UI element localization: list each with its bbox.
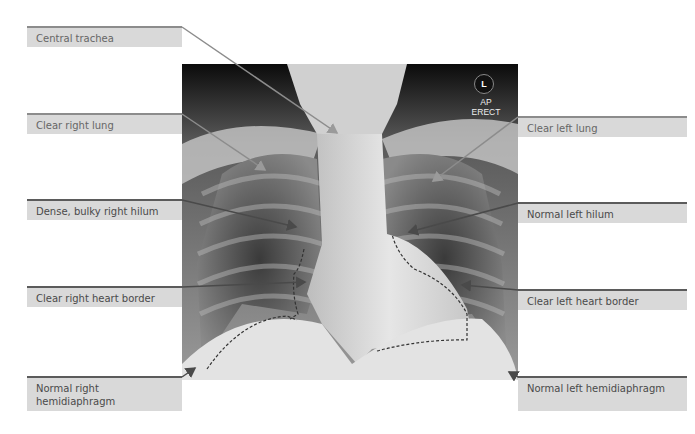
label-left-hemidiaphragm: Normal left hemidiaphragm — [518, 376, 687, 411]
label-central-trachea: Central trachea — [27, 26, 182, 47]
label-right-hilum: Dense, bulky right hilum — [27, 199, 182, 220]
projection-line-2: ERECT — [468, 107, 504, 117]
label-clear-right-lung: Clear right lung — [27, 113, 182, 134]
label-clear-left-lung: Clear left lung — [518, 116, 687, 137]
projection-label: AP ERECT — [468, 97, 504, 117]
label-right-hemidiaphragm: Normal right hemidiaphragm — [27, 376, 182, 411]
orientation-marker: L — [474, 74, 494, 94]
label-right-heart-border: Clear right heart border — [27, 286, 182, 307]
label-left-hilum: Normal left hilum — [518, 202, 687, 223]
projection-line-1: AP — [468, 97, 504, 107]
label-left-heart-border: Clear left heart border — [518, 289, 687, 310]
